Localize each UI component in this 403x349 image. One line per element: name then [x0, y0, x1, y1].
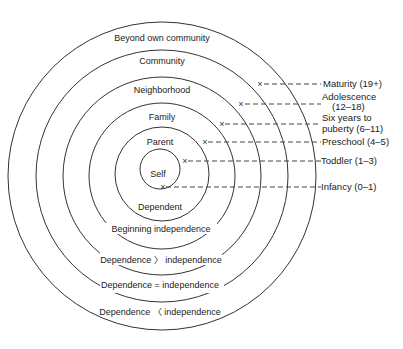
label-dependence-less: Dependence 〈 independence: [99, 307, 221, 317]
concentric-development-diagram: × × × × × × Beyond own community Communi…: [0, 0, 403, 349]
marker-maturity: ×: [257, 79, 262, 89]
label-dependent: Dependent: [138, 202, 183, 212]
age-stage-labels: Maturity (19+) Adolescence (12–18) Six y…: [321, 78, 389, 192]
dependence-labels: Dependent Beginning independence Depende…: [99, 202, 222, 317]
label-family: Family: [149, 112, 176, 122]
label-parent: Parent: [147, 137, 174, 147]
label-neighborhood: Neighborhood: [134, 85, 191, 95]
stage-six-years-line1: Six years to: [322, 112, 372, 123]
marker-infancy: ×: [160, 182, 165, 192]
marker-adolescence: ×: [238, 99, 243, 109]
stage-preschool: Preschool (4–5): [322, 136, 389, 147]
marker-toddler: ×: [182, 156, 187, 166]
label-beyond-own-community: Beyond own community: [114, 33, 210, 43]
marker-six-years: ×: [219, 119, 224, 129]
stage-six-years-line2: puberty (6–11): [322, 123, 383, 134]
label-dependence-greater: Dependence 〉 independence: [100, 255, 222, 265]
label-beginning-independence: Beginning independence: [111, 224, 210, 234]
stage-adolescence-line2: (12–18): [332, 101, 365, 112]
stage-markers: × × × × × ×: [160, 79, 262, 192]
label-self: Self: [150, 169, 166, 179]
label-dependence-equal: Dependence = independence: [101, 280, 219, 290]
label-community: Community: [139, 56, 185, 66]
stage-toddler: Toddler (1–3): [321, 155, 377, 166]
stage-maturity: Maturity (19+): [323, 78, 382, 89]
marker-preschool: ×: [202, 137, 207, 147]
stage-infancy: Infancy (0–1): [321, 181, 376, 192]
